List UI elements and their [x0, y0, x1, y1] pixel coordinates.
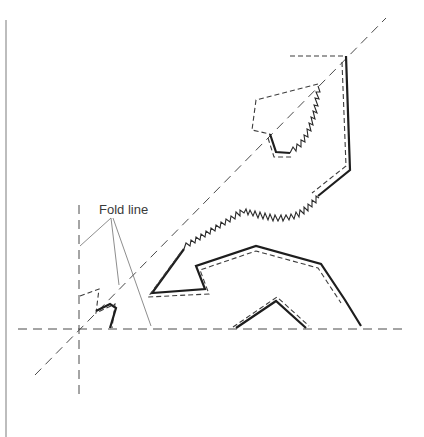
- pocket-cut-edge: [270, 134, 290, 153]
- leader-to-horizontal-fold: [113, 218, 151, 326]
- fold-pattern-diagram: Fold line: [0, 0, 424, 437]
- tent-cut-edge: [236, 301, 306, 328]
- small-corner-piece: [80, 289, 116, 328]
- leader-to-diagonal-fold: [111, 218, 119, 285]
- fold-line-label: Fold line: [99, 202, 148, 217]
- diagonal-fold-line: [35, 18, 386, 375]
- main-zigzag-edge: [184, 196, 319, 249]
- pocket-zigzag-edge: [290, 86, 320, 153]
- small-piece-seam: [80, 289, 115, 328]
- small-piece-cut-edge: [96, 304, 116, 328]
- tent-piece: [233, 297, 309, 328]
- lower-left-piece: [148, 246, 361, 326]
- leader-to-vertical-fold: [80, 218, 111, 246]
- top-right-piece: [290, 56, 350, 196]
- zigzag-edge-lower: [184, 196, 319, 249]
- right-cut-edge: [318, 56, 350, 196]
- pocket-dashed-outline: [252, 84, 318, 134]
- right-seam: [312, 62, 346, 193]
